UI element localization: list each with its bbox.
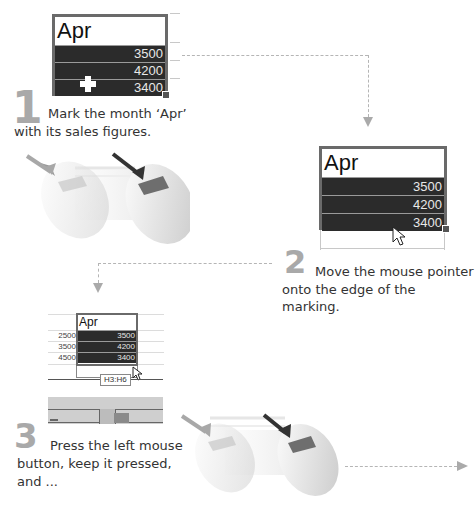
value-cell[interactable]: 3400 <box>322 213 444 231</box>
step2-spreadsheet: Apr 3500 4200 3400 <box>316 140 451 252</box>
value-cell[interactable]: 3500 <box>55 45 165 62</box>
gridline <box>320 248 445 249</box>
step3-text-line3: and ... <box>17 473 58 490</box>
drop-marker <box>114 413 129 423</box>
step3-number: 3 <box>14 419 38 453</box>
flow-arrow-line <box>98 263 99 283</box>
step2-text-line1: Move the mouse pointer <box>315 263 474 280</box>
step1-spreadsheet: Apr 3500 4200 3400 <box>50 8 178 100</box>
flow-arrow-line <box>345 466 457 467</box>
step2-number: 2 <box>284 246 306 278</box>
value-cell[interactable]: 3400 <box>55 79 165 96</box>
mouse-click-illustration <box>25 148 190 248</box>
value-cell[interactable]: 3500 <box>78 330 136 341</box>
step1-text-line2: with its sales figures. <box>14 123 151 140</box>
value-cell[interactable]: 4200 <box>322 195 444 213</box>
step3-text-line2: button, keep it pressed, <box>17 455 172 472</box>
fill-handle[interactable] <box>162 91 170 99</box>
header-cell-apr[interactable]: Apr <box>78 315 136 330</box>
selected-range[interactable]: Apr 3500 4200 3400 <box>52 14 168 96</box>
flow-arrow-line <box>98 263 272 264</box>
step2-text-line2: onto the edge of the marking. <box>282 281 475 315</box>
flow-arrow-head-icon <box>93 283 103 293</box>
worksheet-strip <box>48 397 163 424</box>
value-cell[interactable]: 3500 <box>322 177 444 195</box>
selected-range[interactable]: Apr 3500 4200 3400 <box>76 313 138 366</box>
value-cell[interactable]: 4200 <box>55 62 165 79</box>
gridline <box>320 228 321 250</box>
range-tooltip: H3:H6 <box>100 374 131 386</box>
fill-handle[interactable] <box>442 225 450 233</box>
header-cell-apr[interactable]: Apr <box>55 17 165 45</box>
row-value: 3500 <box>48 342 76 351</box>
mouse-icon <box>25 148 190 248</box>
gridline <box>170 42 180 43</box>
plus-cursor-icon <box>78 75 98 93</box>
row-value: 2500 <box>48 331 76 340</box>
strip-mark <box>50 419 58 421</box>
gridline <box>170 78 180 79</box>
row-value: 4500 <box>48 353 76 362</box>
value-cell[interactable]: 3400 <box>78 352 136 363</box>
step3-text-line1: Press the left mouse <box>50 437 183 454</box>
flow-arrow-line <box>368 55 369 117</box>
selected-range[interactable]: Apr 3500 4200 3400 <box>319 146 447 230</box>
mouse-icon <box>180 410 345 500</box>
mouse-click-illustration <box>180 410 345 500</box>
header-cell-apr[interactable]: Apr <box>322 149 444 177</box>
flow-arrow-head-icon <box>363 117 373 127</box>
gridline <box>170 60 180 61</box>
flow-arrow-head-icon <box>457 461 468 471</box>
gridline <box>170 13 180 14</box>
flow-arrow-line <box>182 55 368 56</box>
value-cell[interactable]: 4200 <box>78 341 136 352</box>
arrow-cursor-icon <box>392 226 408 248</box>
step1-text-line1: Mark the month ‘Apr’ <box>48 105 187 122</box>
